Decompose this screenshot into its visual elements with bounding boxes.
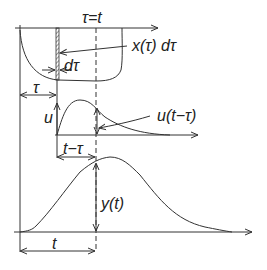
x-dtau-leader xyxy=(60,46,127,53)
label-t: t xyxy=(52,236,56,252)
label-t-minus-tau: t−τ xyxy=(63,141,83,157)
impulse-response-curve xyxy=(57,100,170,135)
convolution-diagram: τ=t x(τ) dτ dτ τ u u(t−τ) t−τ y(t) t xyxy=(0,0,267,270)
label-tau-eq-t: τ=t xyxy=(82,10,102,26)
output-curve xyxy=(20,157,232,232)
label-tau: τ xyxy=(33,80,39,96)
label-dtau: dτ xyxy=(64,58,79,74)
label-x-tau-dtau: x(τ) dτ xyxy=(132,38,176,54)
hatched-strip xyxy=(56,28,59,80)
label-y-t: y(t) xyxy=(101,196,124,212)
label-u-t-minus-tau: u(t−τ) xyxy=(157,108,196,124)
label-u: u xyxy=(44,110,53,126)
